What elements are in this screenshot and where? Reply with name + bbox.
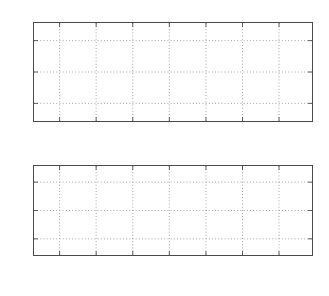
figure-container <box>0 0 329 296</box>
plot-svg-bottom <box>34 166 312 255</box>
gridlines-vertical-bottom <box>60 166 279 255</box>
gridlines-vertical-top <box>60 23 279 121</box>
plot-area-top <box>33 22 313 122</box>
gridlines-horizontal-top <box>34 41 312 104</box>
gridlines-horizontal-bottom <box>34 182 312 239</box>
chart-panel-bottom <box>0 142 329 296</box>
plot-area-bottom <box>33 165 313 256</box>
y-axis-top <box>0 22 31 122</box>
chart-panel-top <box>0 0 329 140</box>
y-axis-bottom <box>0 165 31 256</box>
plot-svg-top <box>34 23 312 121</box>
